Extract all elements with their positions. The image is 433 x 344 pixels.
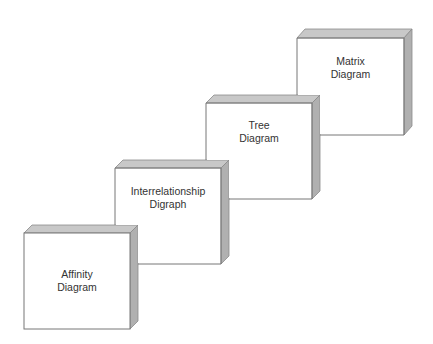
label-matrix-line2: Diagram (297, 68, 404, 81)
label-tree: Tree Diagram (206, 119, 312, 145)
label-interrelationship-line2: Digraph (115, 198, 221, 211)
label-affinity-line2: Diagram (24, 281, 130, 294)
label-interrelationship: Interrelationship Digraph (115, 185, 221, 211)
label-affinity-line1: Affinity (24, 268, 130, 281)
label-tree-line2: Diagram (206, 132, 312, 145)
label-matrix-line1: Matrix (297, 55, 404, 68)
label-affinity: Affinity Diagram (24, 268, 130, 294)
label-interrelationship-line1: Interrelationship (115, 185, 221, 198)
label-tree-line1: Tree (206, 119, 312, 132)
label-matrix: Matrix Diagram (297, 55, 404, 81)
